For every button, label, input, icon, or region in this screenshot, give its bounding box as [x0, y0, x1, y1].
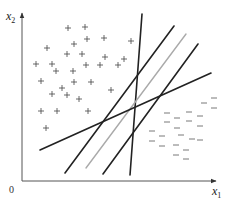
x-axis-label-sub: 1	[217, 191, 221, 200]
line-steep-right	[103, 44, 198, 174]
hyperplanes	[40, 14, 211, 175]
plus-marker	[83, 62, 89, 68]
negative-points	[149, 98, 217, 159]
plus-marker	[38, 108, 44, 114]
plus-marker	[115, 62, 121, 68]
plus-marker	[70, 68, 76, 74]
plus-marker	[38, 78, 44, 84]
plus-marker	[79, 51, 85, 57]
plus-marker	[128, 38, 134, 44]
plus-marker	[71, 41, 77, 47]
plus-marker	[101, 35, 107, 41]
plus-marker	[49, 61, 55, 67]
plus-marker	[65, 25, 71, 31]
axes	[22, 13, 216, 181]
plus-marker	[85, 108, 91, 114]
line-optimal-grey	[86, 34, 186, 168]
plus-marker	[121, 56, 127, 62]
plus-marker	[53, 68, 59, 74]
plus-marker	[43, 125, 49, 131]
plus-marker	[33, 61, 39, 67]
plus-marker	[64, 51, 70, 57]
plus-marker	[108, 87, 114, 93]
diagram-canvas	[0, 0, 232, 204]
plus-marker	[59, 85, 65, 91]
plus-marker	[49, 91, 55, 97]
plus-marker	[54, 108, 60, 114]
origin-label: 0	[9, 184, 14, 195]
plus-marker	[76, 96, 82, 102]
plus-marker	[64, 92, 70, 98]
plus-marker	[84, 36, 90, 42]
y-axis-label: x2	[6, 10, 15, 25]
plus-marker	[44, 45, 50, 51]
plus-marker	[71, 79, 77, 85]
line-shallow	[40, 73, 211, 150]
plus-marker	[82, 24, 88, 30]
x-axis-label: x1	[212, 185, 221, 200]
plus-marker	[102, 54, 108, 60]
plus-marker	[88, 79, 94, 85]
y-axis-label-sub: 2	[11, 16, 15, 25]
plus-marker	[97, 62, 103, 68]
